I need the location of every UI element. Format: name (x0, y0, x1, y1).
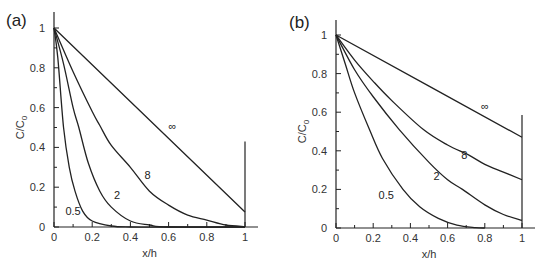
x-tick-label: 0.6 (161, 231, 176, 243)
y-tick-label: 0 (39, 221, 45, 233)
curve-0.5 (54, 28, 245, 227)
x-tick-label: 0 (51, 231, 57, 243)
panel-a: 00.20.40.60.8100.20.40.60.81x/hC/C0(a)0.… (6, 11, 258, 259)
curve-label: ∞ (481, 100, 489, 112)
curve-label: 8 (145, 169, 151, 181)
y-tick-label: 0.4 (312, 145, 327, 157)
curve-2 (336, 35, 522, 220)
curve-label: 2 (114, 189, 120, 201)
y-tick-label: 0.6 (312, 106, 327, 118)
curve-infinity (336, 35, 522, 137)
y-tick-label: 0.6 (30, 102, 45, 114)
figure: 00.20.40.60.8100.20.40.60.81x/hC/C0(a)0.… (0, 0, 547, 271)
x-tick-label: 0.2 (366, 232, 381, 244)
x-tick-label: 0.8 (199, 231, 214, 243)
x-tick-label: 0.4 (403, 232, 418, 244)
x-tick-label: 0.2 (85, 231, 100, 243)
curve-8 (336, 35, 522, 180)
y-tick-label: 0.2 (30, 181, 45, 193)
curve-label: 0.5 (65, 205, 80, 217)
x-axis-label: x/h (422, 248, 437, 260)
y-tick-label: 0.2 (312, 183, 327, 195)
panel-label: (b) (289, 13, 310, 32)
x-tick-label: 0 (333, 232, 339, 244)
x-axis-label: x/h (142, 247, 157, 259)
y-tick-label: 0.8 (30, 62, 45, 74)
x-tick-label: 1 (519, 232, 525, 244)
y-tick-label: 1 (39, 22, 45, 34)
curve-label: 8 (461, 149, 467, 161)
x-tick-label: 1 (242, 231, 248, 243)
y-axis-label: C/C0 (296, 119, 311, 143)
x-tick-label: 0.4 (123, 231, 138, 243)
panel-label: (a) (6, 11, 27, 30)
curve-label: ∞ (168, 120, 176, 132)
curve-label: 0.5 (379, 189, 394, 201)
curve-label: 2 (433, 170, 439, 182)
x-tick-label: 0.8 (477, 232, 492, 244)
y-tick-label: 0.4 (30, 141, 45, 153)
y-axis-label: C/C0 (14, 115, 29, 139)
curve-2 (54, 28, 245, 227)
curve-8 (54, 28, 245, 227)
curve-infinity (54, 28, 245, 212)
x-tick-label: 0.6 (440, 232, 455, 244)
y-tick-label: 1 (321, 29, 327, 41)
y-tick-label: 0.8 (312, 68, 327, 80)
panel-b: 00.20.40.60.8100.20.40.60.81x/hC/C0(b)0.… (289, 13, 535, 260)
y-tick-label: 0 (321, 222, 327, 234)
